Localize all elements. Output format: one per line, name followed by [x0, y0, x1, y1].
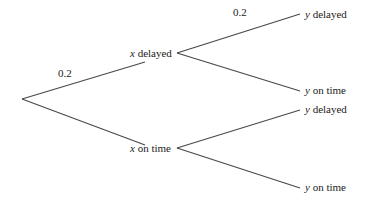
leaf-y-delayed-2: y delayed [304, 103, 347, 115]
edge-x-delayed-to-y-delayed [177, 14, 300, 53]
edge-x-on-time-to-y-delayed [177, 110, 300, 148]
edge-x-on-time-to-y-on-time [177, 148, 300, 188]
node-x-on-time: x on time [129, 142, 171, 154]
leaf-y-on-time-1: y on time [304, 84, 346, 96]
leaf-y-on-time-2-text: on time [310, 181, 346, 193]
leaf-y-on-time-2: y on time [304, 181, 346, 193]
probability-tree-diagram: 0.2 0.2 x delayed x on time y delayed y … [0, 0, 365, 203]
edge-root-to-x-on-time [22, 99, 145, 145]
leaf-y-delayed-1-text: delayed [310, 8, 347, 20]
node-x-delayed-text: delayed [135, 47, 172, 59]
edge-x-delayed-to-y-on-time [177, 53, 300, 91]
edge-root-to-x-delayed [22, 62, 145, 99]
leaf-y-on-time-1-text: on time [310, 84, 346, 96]
prob-label-y-delayed-given-x-delayed: 0.2 [233, 6, 247, 18]
leaf-y-delayed-1: y delayed [304, 8, 347, 20]
prob-label-x-delayed: 0.2 [58, 67, 72, 79]
leaf-y-delayed-2-text: delayed [310, 103, 347, 115]
node-x-delayed: x delayed [129, 47, 172, 59]
node-x-on-time-text: on time [135, 142, 171, 154]
